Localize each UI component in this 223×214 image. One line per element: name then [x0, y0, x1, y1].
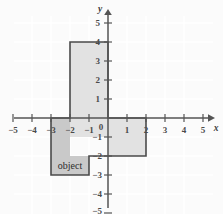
origin-label: 0: [99, 122, 104, 132]
y-tick-label--4: −4: [92, 189, 102, 199]
x-tick-label-2: 2: [144, 125, 149, 135]
object-text-label: object: [58, 160, 83, 171]
x-tick-label--2: −2: [65, 125, 75, 135]
y-tick-label-3: 3: [96, 56, 101, 66]
y-tick-label-1: 1: [96, 94, 101, 104]
x-axis-name: x: [213, 123, 219, 133]
y-tick-label-4: 4: [96, 37, 101, 47]
y-tick-label--5: −5: [92, 206, 102, 214]
x-tick-label--5: −5: [8, 125, 18, 135]
y-tick-label--1: −1: [92, 132, 102, 142]
x-tick-label--4: −4: [27, 125, 37, 135]
y-tick-label-2: 2: [96, 75, 101, 85]
right-horizontal-rectangle: [108, 118, 146, 156]
y-tick-label--2: −2: [92, 151, 102, 161]
x-tick-label-1: 1: [125, 125, 130, 135]
coordinate-plot: −5 −4 −3 −2 −1 1 2 3 4 5 0 5 4 3 2 1 −1 …: [0, 0, 223, 214]
coordinate-plane-figure: −5 −4 −3 −2 −1 1 2 3 4 5 0 5 4 3 2 1 −1 …: [0, 0, 223, 214]
x-tick-label-4: 4: [182, 125, 187, 135]
y-axis-name: y: [97, 4, 103, 14]
x-tick-label-5: 5: [201, 125, 206, 135]
y-tick-label-5: 5: [96, 18, 101, 28]
x-tick-label--3: −3: [46, 125, 56, 135]
x-tick-label-3: 3: [163, 125, 168, 135]
y-tick-label--3: −3: [92, 170, 102, 180]
plot-background: [0, 0, 223, 214]
